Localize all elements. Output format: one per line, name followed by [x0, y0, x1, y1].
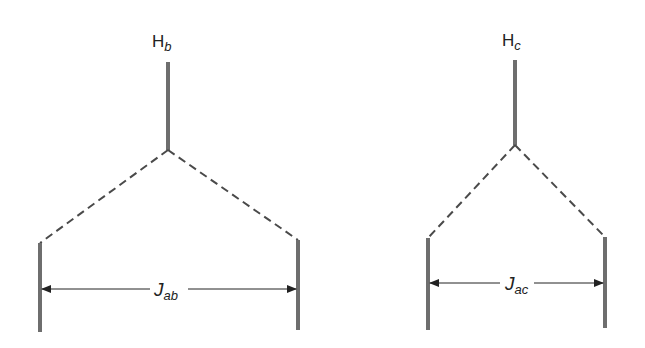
splitting-diagram: Hb Jab Hc Jac [0, 0, 645, 348]
jac-label: Jac [504, 273, 529, 297]
hc-dashed-right [515, 145, 605, 237]
tree-hb: Hb Jab [40, 32, 298, 332]
tree-hc: Hc Jac [428, 31, 605, 330]
hc-dashed-left [428, 145, 515, 238]
hb-dashed-left [40, 150, 168, 243]
hb-dashed-right [168, 150, 298, 240]
hc-label: Hc [502, 31, 521, 53]
jab-label: Jab [153, 279, 178, 303]
hb-label: Hb [152, 32, 172, 54]
